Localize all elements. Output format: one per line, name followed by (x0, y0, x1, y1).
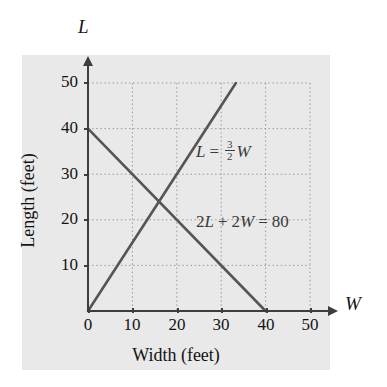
eq1-numerator: 3 (225, 139, 235, 150)
eq1-fraction: 3 2 (225, 139, 235, 162)
y-tick-label-40: 40 (42, 118, 78, 138)
y-axis-line (87, 64, 89, 312)
eq2-coeff2: 2 (232, 212, 241, 232)
y-tick-label-30: 30 (42, 164, 78, 184)
y-axis-arrow-icon (83, 56, 93, 66)
eq2-equals: = (258, 212, 268, 232)
x-tick-label-10: 10 (114, 315, 150, 335)
x-tick-30 (221, 308, 223, 313)
x-tick-label-50: 50 (292, 315, 328, 335)
y-tick-label-20: 20 (42, 209, 78, 229)
eq2-rhs: 80 (272, 212, 289, 232)
y-axis-variable-label: L (78, 16, 89, 38)
y-tick-label-50: 50 (42, 72, 78, 92)
x-tick-40 (266, 308, 268, 313)
equation-label-line2: 2 L + 2 W = 80 (196, 212, 289, 232)
eq1-variable: W (237, 142, 251, 162)
x-axis-line (88, 310, 333, 312)
x-tick-label-20: 20 (159, 315, 195, 335)
y-tick-40 (84, 128, 89, 130)
x-axis-title: Width (feet) (0, 345, 352, 366)
y-tick-50 (84, 82, 89, 84)
y-tick-30 (84, 174, 89, 176)
eq2-coeff1: 2 (196, 212, 205, 232)
plot-area (88, 83, 310, 311)
x-tick-label-40: 40 (248, 315, 284, 335)
eq1-denominator: 2 (225, 150, 235, 162)
eq2-plus: + (218, 212, 228, 232)
x-tick-20 (177, 308, 179, 313)
eq2-var2: W (240, 212, 254, 232)
data-lines (88, 83, 310, 311)
equation-label-line1: L = 3 2 W (196, 140, 251, 163)
x-tick-label-0: 0 (70, 315, 106, 335)
y-tick-10 (84, 265, 89, 267)
eq1-lhs: L (196, 142, 205, 162)
eq2-var1: L (205, 212, 214, 232)
x-tick-50 (310, 308, 312, 313)
y-axis-title: Length (feet) (18, 111, 39, 291)
x-tick-0 (88, 308, 90, 313)
y-tick-20 (84, 219, 89, 221)
x-axis-variable-label: W (345, 293, 361, 315)
x-tick-label-30: 30 (203, 315, 239, 335)
x-axis-arrow-icon (328, 306, 338, 316)
eq1-equals: = (209, 142, 219, 162)
y-tick-label-10: 10 (42, 255, 78, 275)
line-L-equals-three-halves-W (88, 83, 236, 311)
chart-figure: 50 40 30 20 10 0 10 20 30 40 50 L W Widt… (0, 0, 387, 387)
x-tick-10 (132, 308, 134, 313)
